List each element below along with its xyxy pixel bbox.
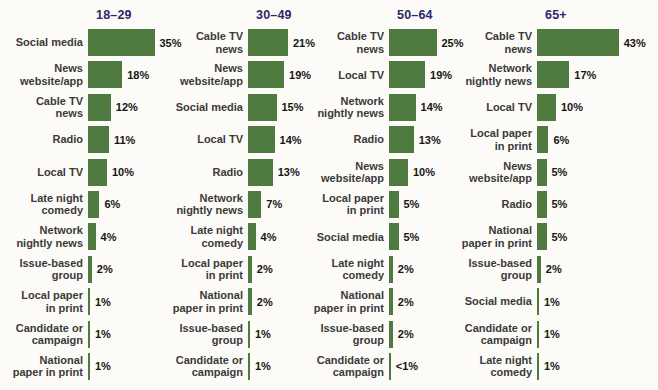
bar-row: Social media15% bbox=[160, 94, 301, 121]
bar bbox=[88, 94, 111, 121]
value-label: 13% bbox=[278, 166, 300, 178]
category-label: Late night comedy bbox=[449, 354, 537, 379]
bar bbox=[88, 191, 99, 218]
value-label: 2% bbox=[398, 296, 414, 308]
bar-row: News website/app19% bbox=[160, 61, 301, 88]
bar bbox=[537, 159, 547, 186]
bar bbox=[248, 191, 261, 218]
bar bbox=[248, 29, 288, 56]
bar bbox=[389, 256, 393, 283]
value-label: 7% bbox=[266, 198, 282, 210]
category-label: Local paper in print bbox=[449, 127, 537, 152]
bar-row: Candidate or campaign1% bbox=[160, 353, 301, 380]
bar bbox=[389, 94, 416, 121]
bar bbox=[248, 159, 273, 186]
bar bbox=[88, 288, 90, 315]
category-label: Issue-based group bbox=[0, 257, 88, 282]
bar bbox=[537, 191, 547, 218]
category-label: Network nightly news bbox=[160, 192, 248, 217]
age-group-column: 50–64Cable TV news25%Local TV19%Network … bbox=[301, 6, 449, 390]
category-label: Candidate or campaign bbox=[301, 354, 389, 379]
bar bbox=[389, 288, 393, 315]
bar-row: Local TV14% bbox=[160, 126, 301, 153]
bar-row: Radio13% bbox=[301, 126, 449, 153]
bar bbox=[537, 29, 619, 56]
age-group-header: 30–49 bbox=[256, 8, 301, 22]
bar bbox=[389, 29, 437, 56]
bar-row: News website/app10% bbox=[301, 159, 449, 186]
value-label: 2% bbox=[257, 296, 273, 308]
bar-row: Social media5% bbox=[301, 223, 449, 250]
value-label: 1% bbox=[95, 328, 111, 340]
bar bbox=[537, 94, 556, 121]
bar bbox=[537, 256, 541, 283]
bar bbox=[248, 353, 250, 380]
value-label: 14% bbox=[280, 134, 302, 146]
category-label: Cable TV news bbox=[301, 30, 389, 55]
value-label: 5% bbox=[404, 231, 420, 243]
bar-rows: Cable TV news21%News website/app19%Socia… bbox=[160, 29, 301, 380]
category-label: National paper in print bbox=[0, 354, 88, 379]
age-group-column: 18–29Social media35%News website/app18%C… bbox=[0, 6, 160, 390]
age-group-column: 30–49Cable TV news21%News website/app19%… bbox=[160, 6, 301, 390]
bar-row: Cable TV news21% bbox=[160, 29, 301, 56]
value-label: 4% bbox=[101, 231, 117, 243]
bar-row: Social media35% bbox=[0, 29, 160, 56]
bar-row: National paper in print2% bbox=[160, 288, 301, 315]
age-group-header: 50–64 bbox=[397, 8, 449, 22]
bar-row: Late night comedy1% bbox=[449, 353, 658, 380]
bar-row: Network nightly news17% bbox=[449, 61, 658, 88]
category-label: Social media bbox=[449, 295, 537, 308]
value-label: 5% bbox=[552, 231, 568, 243]
category-label: Social media bbox=[160, 101, 248, 114]
bar-row: National paper in print2% bbox=[301, 288, 449, 315]
value-label: 4% bbox=[261, 231, 277, 243]
value-label: 2% bbox=[398, 328, 414, 340]
category-label: Late night comedy bbox=[301, 257, 389, 282]
category-label: Issue-based group bbox=[449, 257, 537, 282]
bar bbox=[88, 256, 92, 283]
bar-row: Candidate or campaign1% bbox=[0, 321, 160, 348]
bar-row: National paper in print5% bbox=[449, 223, 658, 250]
bar-row: Issue-based group2% bbox=[449, 256, 658, 283]
bar-row: Social media1% bbox=[449, 288, 658, 315]
bar-row: Radio13% bbox=[160, 159, 301, 186]
bar-chart: 18–29Social media35%News website/app18%C… bbox=[0, 0, 658, 390]
bar-row: Candidate or campaign<1% bbox=[301, 353, 449, 380]
bar bbox=[88, 353, 90, 380]
value-label: 11% bbox=[114, 134, 135, 146]
category-label: National paper in print bbox=[301, 289, 389, 314]
bar-rows: Cable TV news25%Local TV19%Network night… bbox=[301, 29, 449, 380]
bar-row: Network nightly news14% bbox=[301, 94, 449, 121]
category-label: Radio bbox=[0, 133, 88, 146]
bar bbox=[537, 353, 539, 380]
value-label: 12% bbox=[116, 101, 138, 113]
category-label: Local TV bbox=[449, 101, 537, 114]
value-label: 5% bbox=[552, 166, 568, 178]
value-label: 14% bbox=[421, 101, 443, 113]
bar bbox=[389, 159, 408, 186]
bar bbox=[537, 321, 539, 348]
category-label: Local TV bbox=[0, 166, 88, 179]
bar-row: Local TV19% bbox=[301, 61, 449, 88]
bar bbox=[248, 256, 252, 283]
bar bbox=[248, 61, 284, 88]
category-label: News website/app bbox=[0, 62, 88, 87]
age-group-header: 18–29 bbox=[96, 8, 160, 22]
category-label: Social media bbox=[301, 231, 389, 244]
category-label: Cable TV news bbox=[0, 95, 88, 120]
category-label: Radio bbox=[301, 133, 389, 146]
bar-row: Issue-based group1% bbox=[160, 321, 301, 348]
bar-row: Radio5% bbox=[449, 191, 658, 218]
category-label: National paper in print bbox=[160, 289, 248, 314]
bar bbox=[537, 126, 548, 153]
bar-row: Local paper in print2% bbox=[160, 256, 301, 283]
bar-row: Local TV10% bbox=[449, 94, 658, 121]
value-label: 1% bbox=[544, 296, 560, 308]
category-label: Late night comedy bbox=[0, 192, 88, 217]
value-label: 10% bbox=[112, 166, 134, 178]
value-label: 1% bbox=[255, 328, 271, 340]
bar-row: Local paper in print5% bbox=[301, 191, 449, 218]
category-label: Social media bbox=[0, 36, 88, 49]
bar-row: Candidate or campaign1% bbox=[449, 321, 658, 348]
